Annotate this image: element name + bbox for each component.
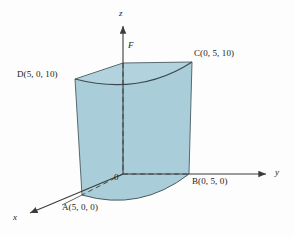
point-label-D: D(5, 0, 10) bbox=[17, 69, 58, 79]
point-label-B: B(0, 5, 0) bbox=[192, 176, 228, 186]
solid-diagram-svg bbox=[0, 0, 294, 236]
axis-label-x: x bbox=[13, 212, 17, 222]
origin-label: 0 bbox=[114, 172, 119, 182]
axis-label-y: y bbox=[275, 167, 279, 177]
figure-canvas: z y x 0 F C(0, 5, 10) D(5, 0, 10) B(0, 5… bbox=[0, 0, 294, 236]
point-label-C: C(0, 5, 10) bbox=[194, 48, 234, 58]
point-label-F: F bbox=[128, 40, 134, 50]
point-label-A: A(5, 0, 0) bbox=[62, 202, 98, 212]
axis-label-z: z bbox=[119, 8, 123, 18]
